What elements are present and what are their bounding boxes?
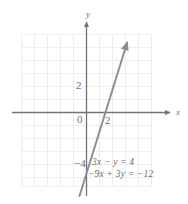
x-axis-label: x: [176, 108, 180, 117]
y-axis-label: y: [86, 10, 90, 19]
y-tick-label-negative-4: −4: [74, 158, 86, 169]
y-tick-label-2: 2: [76, 80, 82, 91]
equation-label-second: −9x + 3y = −12: [88, 170, 153, 180]
graph-figure: y x 0 2 2 −4 3x − y = 4 −9x + 3y = −12: [0, 0, 188, 204]
x-tick-label-2: 2: [105, 115, 111, 126]
origin-label: 0: [77, 114, 83, 125]
equation-label-first: 3x − y = 4: [92, 158, 134, 168]
